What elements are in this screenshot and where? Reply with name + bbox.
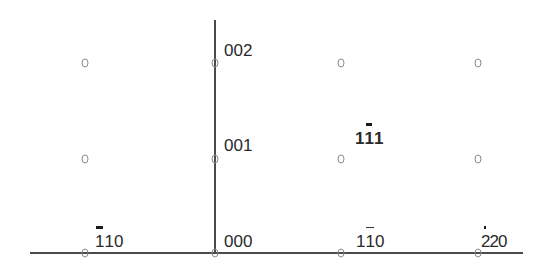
- index-digit: 2: [481, 232, 489, 251]
- overbar: [484, 226, 486, 229]
- index-h: 1: [355, 130, 364, 147]
- diffraction-spots: [82, 59, 481, 257]
- index-h: 2: [481, 233, 489, 250]
- label-1-bar1-1: 111: [355, 130, 383, 147]
- diffraction-spot: [475, 59, 481, 67]
- index-k: 0: [233, 233, 242, 250]
- index-k: 0: [233, 137, 242, 154]
- overbar: [96, 226, 103, 229]
- index-l: 1: [243, 137, 252, 154]
- index-l: 0: [375, 233, 384, 250]
- index-k: 1: [365, 233, 374, 250]
- index-h: 1: [95, 233, 104, 250]
- index-l: 1: [374, 130, 383, 147]
- index-l: 0: [498, 233, 506, 250]
- overbar: [366, 227, 373, 228]
- index-h: 1: [356, 233, 365, 250]
- diffraction-spot: [338, 155, 344, 163]
- label-001: 001: [224, 137, 252, 154]
- index-h: 0: [224, 233, 233, 250]
- diffraction-spot: [82, 155, 88, 163]
- index-k: 1: [364, 130, 373, 147]
- index-l: 0: [243, 233, 252, 250]
- index-k: 0: [233, 42, 242, 59]
- overbar: [366, 123, 371, 126]
- label-1-bar1-0: 110: [356, 233, 384, 250]
- label-002: 002: [224, 42, 252, 59]
- index-l: 0: [114, 233, 123, 250]
- label-000: 000: [224, 233, 252, 250]
- index-h: 0: [224, 137, 233, 154]
- diffraction-spot: [338, 59, 344, 67]
- label-bar1-1-0: 110: [95, 233, 123, 250]
- index-digit: 1: [95, 232, 104, 251]
- index-k: 1: [104, 233, 113, 250]
- diffraction-spot: [82, 59, 88, 67]
- diffraction-spot: [475, 155, 481, 163]
- label-bar2-2-0: 220: [481, 233, 506, 250]
- index-k: 2: [489, 233, 497, 250]
- index-l: 2: [243, 42, 252, 59]
- diffraction-diagram: [0, 0, 546, 276]
- index-h: 0: [224, 42, 233, 59]
- index-digit: 1: [365, 232, 374, 251]
- index-digit: 1: [364, 129, 373, 148]
